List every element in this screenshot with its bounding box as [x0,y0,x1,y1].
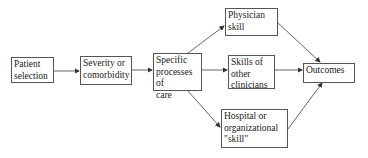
node-physician-skill: Physician skill [225,8,278,36]
edge-physician-outcomes [278,23,320,62]
node-other-clinicians: Skills of other clinicians [228,55,275,89]
edge-hospital-outcomes [288,83,322,129]
edge-processes-hospital [188,91,220,127]
node-hospital-skill: Hospital or organizational "skill" [221,109,288,148]
node-processes: Specific processes of care [153,53,202,91]
edge-processes-physician [188,26,224,53]
node-severity: Severity or comorbidity [80,56,132,85]
node-patient-selection: Patient selection [11,57,54,83]
node-outcomes: Outcomes [303,63,355,83]
